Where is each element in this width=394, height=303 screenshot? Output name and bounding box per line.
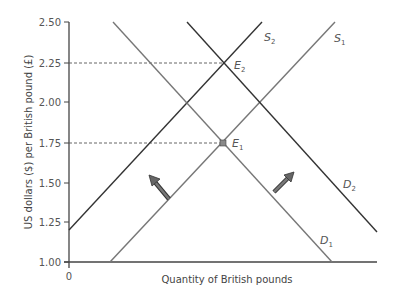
ytick-1.25: 1.25 [39,217,61,228]
e1-marker [220,140,226,146]
ytick-2.00: 2.00 [39,97,61,108]
ytick-1.00: 1.00 [39,257,61,268]
label-e2: E2 [234,59,245,74]
ytick-1.75: 1.75 [39,138,61,149]
curve-d2 [187,22,377,232]
chart: 2.50 2.25 2.00 1.75 1.50 1.25 1.00 0 US … [0,0,394,303]
label-e1: E1 [232,137,243,152]
ytick-1.50: 1.50 [39,178,61,189]
ytick-2.25: 2.25 [39,58,61,69]
x-axis-title: Quantity of British pounds [161,274,292,285]
label-s2: S2 [264,31,275,46]
arrow-supply-shift-icon [149,175,169,199]
curve-s2 [69,22,262,230]
arrow-demand-shift-icon [274,172,294,192]
ytick-2.50: 2.50 [39,17,61,28]
y-axis-title: US dollars ($) per British pound (£) [23,55,34,230]
label-d2: D2 [343,178,356,193]
label-s1: S1 [334,32,345,47]
x-origin-label: 0 [66,271,72,282]
label-d1: D1 [320,234,333,249]
y-axis [64,22,69,268]
